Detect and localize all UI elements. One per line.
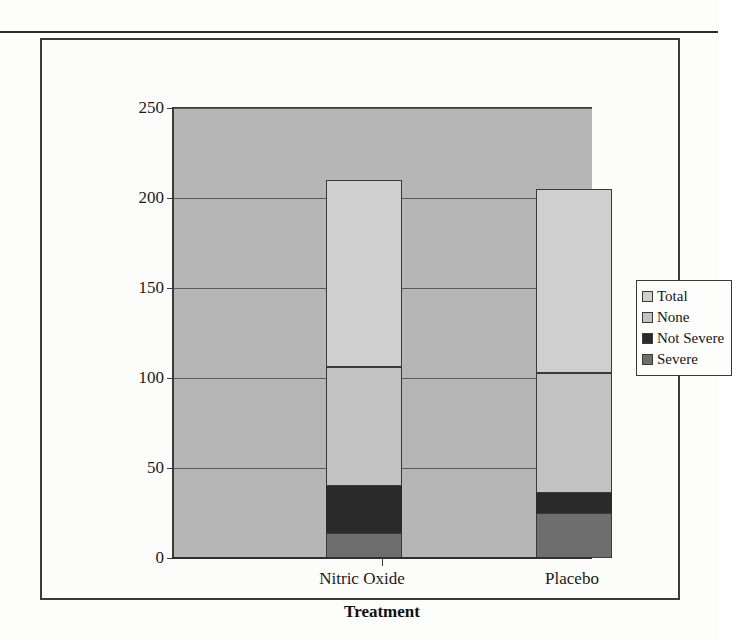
figure-frame: 250200150100500 Nitric OxidePlacebo Trea… — [40, 38, 680, 600]
legend-item-not-severe: Not Severe — [642, 328, 727, 349]
y-tick-100 — [167, 378, 174, 379]
legend-label: Severe — [657, 352, 698, 367]
legend-label: Not Severe — [657, 331, 724, 346]
bar-segment-nitric-oxide-severe — [326, 533, 402, 558]
x-tick-label-nitric-oxide: Nitric Oxide — [272, 569, 452, 589]
y-axis-tick-labels: 250200150100500 — [114, 107, 164, 557]
x-tick-label-placebo: Placebo — [482, 569, 662, 589]
legend-label: None — [657, 310, 690, 325]
y-tick-label-250: 250 — [120, 99, 164, 116]
bar-segment-nitric-oxide-not-severe — [326, 486, 402, 533]
bar-segment-nitric-oxide-total — [326, 180, 402, 367]
y-tick-label-100: 100 — [120, 369, 164, 386]
bar-segment-nitric-oxide-none — [326, 367, 402, 486]
y-tick-label-50: 50 — [120, 459, 164, 476]
x-axis-title: Treatment — [172, 602, 592, 622]
bar-placebo — [536, 108, 612, 558]
page-top-rule — [0, 31, 718, 33]
legend-swatch-icon — [642, 291, 653, 302]
bar-segment-placebo-not-severe — [536, 493, 612, 513]
legend-label: Total — [657, 289, 688, 304]
legend-item-none: None — [642, 307, 727, 328]
y-tick-label-150: 150 — [120, 279, 164, 296]
chart-legend: TotalNoneNot SevereSevere — [636, 280, 732, 376]
bar-segment-placebo-total — [536, 189, 612, 373]
y-tick-200 — [167, 198, 174, 199]
y-tick-label-0: 0 — [120, 549, 164, 566]
legend-item-severe: Severe — [642, 349, 727, 370]
legend-swatch-icon — [642, 354, 653, 365]
x-axis-category-divider — [382, 557, 383, 566]
bar-segment-placebo-none — [536, 373, 612, 494]
y-tick-label-200: 200 — [120, 189, 164, 206]
bar-segment-placebo-severe — [536, 513, 612, 558]
y-tick-250 — [167, 108, 174, 109]
legend-item-total: Total — [642, 286, 727, 307]
y-tick-50 — [167, 468, 174, 469]
plot-area — [172, 107, 592, 557]
y-tick-150 — [167, 288, 174, 289]
bar-nitric-oxide — [326, 108, 402, 558]
legend-swatch-icon — [642, 333, 653, 344]
legend-swatch-icon — [642, 312, 653, 323]
